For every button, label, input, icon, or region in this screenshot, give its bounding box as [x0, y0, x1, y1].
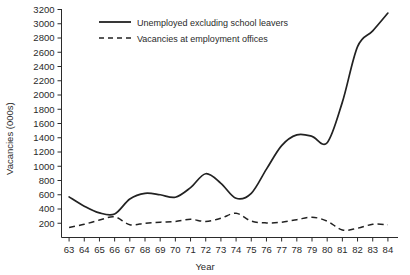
y-tick-label: 800: [39, 175, 55, 186]
x-tick-label: 73: [216, 244, 227, 255]
x-tick-label: 65: [94, 244, 105, 255]
y-tick-label: 600: [39, 189, 55, 200]
x-tick-label: 74: [231, 244, 242, 255]
x-tick-label: 63: [64, 244, 75, 255]
x-tick-label: 76: [261, 244, 272, 255]
x-tick-label: 64: [79, 244, 90, 255]
x-tick-label: 67: [125, 244, 136, 255]
x-tick-label: 78: [292, 244, 303, 255]
x-tick-label: 83: [367, 244, 378, 255]
y-axis-title: Vacancies (000s): [4, 102, 15, 175]
chart-container: 2004006008001000120014001600180020002200…: [0, 0, 410, 275]
legend: Unemployed excluding school leavers Vaca…: [99, 18, 289, 44]
x-tick-label: 75: [246, 244, 257, 255]
y-tick-label: 3000: [33, 18, 54, 29]
x-tick-label: 71: [185, 244, 196, 255]
x-tick-label: 68: [140, 244, 151, 255]
x-tick-label: 77: [276, 244, 287, 255]
y-tick-label: 1800: [33, 104, 54, 115]
x-tick-label: 72: [200, 244, 211, 255]
x-tick-label: 82: [352, 244, 363, 255]
x-axis-ticks: [69, 238, 388, 242]
series-group: [69, 13, 388, 230]
y-axis-ticks: [58, 10, 62, 224]
legend-label-vacancies: Vacancies at employment offices: [137, 34, 268, 44]
x-tick-label: 81: [337, 244, 348, 255]
x-axis-tick-labels: 6364656667686970717273747576777879808182…: [64, 244, 393, 255]
x-tick-label: 80: [322, 244, 333, 255]
y-tick-label: 400: [39, 203, 55, 214]
y-tick-label: 200: [39, 218, 55, 229]
y-tick-label: 1000: [33, 161, 54, 172]
y-tick-label: 2600: [33, 47, 54, 58]
x-tick-label: 69: [155, 244, 166, 255]
y-tick-label: 2000: [33, 89, 54, 100]
y-tick-label: 2400: [33, 61, 54, 72]
x-tick-label: 84: [383, 244, 394, 255]
legend-label-unemployed: Unemployed excluding school leavers: [137, 18, 289, 28]
x-tick-label: 66: [109, 244, 120, 255]
x-axis-title: Year: [195, 261, 214, 272]
y-tick-label: 2200: [33, 75, 54, 86]
line-chart: 2004006008001000120014001600180020002200…: [0, 0, 410, 275]
y-tick-label: 1600: [33, 118, 54, 129]
x-tick-label: 70: [170, 244, 181, 255]
series-line-vacancies: [69, 213, 388, 230]
y-tick-label: 1400: [33, 132, 54, 143]
y-axis-group: 2004006008001000120014001600180020002200…: [4, 4, 62, 238]
y-axis-tick-labels: 2004006008001000120014001600180020002200…: [33, 4, 54, 229]
x-tick-label: 79: [307, 244, 318, 255]
y-tick-label: 1200: [33, 146, 54, 157]
y-tick-label: 2800: [33, 32, 54, 43]
y-tick-label: 3200: [33, 4, 54, 15]
x-axis-group: 6364656667686970717273747576777879808182…: [62, 238, 399, 273]
